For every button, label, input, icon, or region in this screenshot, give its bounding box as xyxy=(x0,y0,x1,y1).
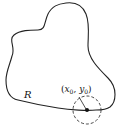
region-diagram: R (x0, y0) xyxy=(0,0,126,130)
point-marker xyxy=(85,108,89,112)
pointer-line xyxy=(79,97,86,109)
region-label: R xyxy=(23,89,32,100)
region-boundary xyxy=(6,3,115,111)
point-label: (x0, y0) xyxy=(61,84,92,95)
